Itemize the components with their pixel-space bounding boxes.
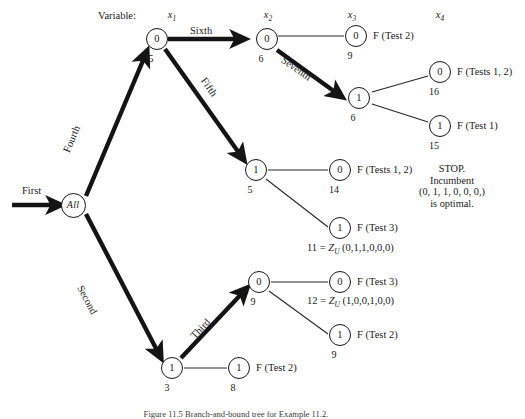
node-x4-branch0[interactable]: 0	[429, 61, 451, 83]
node-x3-branch1[interactable]: 1	[348, 87, 370, 109]
node-value-x3-mid-branch0: 14	[329, 185, 339, 195]
stop-note: STOP. Incumbent (0, 1, 1, 0, 0, 0,) is o…	[419, 163, 485, 209]
fathom-label-x2-lower-branch1: F (Test 2)	[256, 363, 297, 374]
incumbent-line-1: 11 = ZU (0,1,1,0,0,0)	[307, 243, 394, 256]
node-x3-low-branch0[interactable]: 0	[329, 271, 351, 293]
node-x1-branch1[interactable]: 1	[161, 357, 183, 379]
node-value-x3-branch0: 9	[348, 51, 353, 61]
incumbent-1-zu: ZU	[328, 242, 339, 253]
variable-label-x1: x1	[168, 10, 176, 23]
edge-label-first: First	[22, 186, 41, 197]
fathom-label-x3-low-branch0: F (Test 3)	[357, 277, 398, 288]
edge-x3-1-to-x4-1	[372, 104, 428, 122]
variable-label-x3: x3	[348, 10, 356, 23]
node-value-x4-branch1: 15	[429, 141, 439, 151]
node-x1-branch0[interactable]: 0	[146, 28, 168, 50]
incumbent-2-vector: (1,0,0,1,0,0)	[342, 295, 394, 306]
stop-note-line-4: is optimal.	[419, 198, 485, 210]
node-value-x2-branch0: 6	[259, 54, 264, 64]
node-value-x2-branch1: 5	[248, 185, 253, 195]
node-value-x3-branch1: 6	[351, 113, 356, 123]
node-value-x4-branch0: 16	[429, 87, 439, 97]
node-x4-branch1[interactable]: 1	[429, 115, 451, 137]
node-x3-mid-branch1[interactable]: 1	[329, 217, 351, 239]
node-x3-low-branch1[interactable]: 1	[329, 324, 351, 346]
node-x2-branch0[interactable]: 0	[256, 28, 278, 50]
node-value-x1-branch1: 3	[165, 383, 170, 393]
node-value-x3-low-branch1: 9	[332, 350, 337, 360]
node-x2-branch1[interactable]: 1	[245, 159, 267, 181]
incumbent-line-2: 12 = ZU (1,0,0,1,0,0)	[307, 296, 394, 309]
variable-label-x2: x2	[264, 10, 272, 23]
node-x3-mid-branch0[interactable]: 0	[329, 159, 351, 181]
variable-header: Variable:	[98, 11, 136, 22]
node-root-all[interactable]: All	[61, 193, 86, 218]
incumbent-2-zu: ZU	[329, 295, 340, 306]
stop-note-line-2: Incumbent	[419, 175, 485, 187]
fathom-label-x4-branch0: F (Tests 1, 2)	[457, 67, 512, 78]
node-value-x1-branch0: 5	[149, 54, 154, 64]
node-x3-branch0[interactable]: 0	[345, 25, 367, 47]
fathom-label-x3-mid-branch1: F (Test 3)	[357, 223, 398, 234]
fathom-label-x4-branch1: F (Test 1)	[457, 121, 498, 132]
fathom-label-x3-mid-branch0: F (Tests 1, 2)	[357, 165, 412, 176]
edge-label-sixth: Sixth	[190, 26, 212, 37]
edge-fourth	[86, 51, 147, 196]
incumbent-2-value: 12	[307, 295, 318, 306]
node-value-x2-lower-branch0: 9	[251, 297, 256, 307]
node-value-x2-lower-branch1: 8	[231, 383, 236, 393]
edge-x2-1-to-x3-b	[266, 179, 328, 227]
incumbent-1-vector: (0,1,1,0,0,0)	[342, 242, 394, 253]
fathom-label-x3-low-branch1: F (Test 2)	[357, 330, 398, 341]
node-x2-lower-branch0[interactable]: 0	[248, 271, 270, 293]
incumbent-1-eq: =	[320, 242, 326, 253]
figure-caption: Figure 11.5 Branch-and-bound tree for Ex…	[144, 409, 329, 419]
incumbent-1-value: 11	[307, 242, 317, 253]
stop-note-line-3: (0, 1, 1, 0, 0, 0,)	[419, 186, 485, 198]
variable-label-x4: x4	[436, 10, 444, 23]
stop-note-line-1: STOP.	[419, 163, 485, 175]
fathom-label-x3-branch0: F (Test 2)	[373, 31, 414, 42]
node-x2-lower-branch1[interactable]: 1	[228, 357, 250, 379]
edge-x3-1-to-x4-0	[372, 76, 428, 92]
edge-third	[181, 288, 247, 358]
incumbent-2-eq: =	[320, 295, 326, 306]
edge-second	[86, 214, 161, 358]
edge-fifth	[165, 49, 244, 160]
